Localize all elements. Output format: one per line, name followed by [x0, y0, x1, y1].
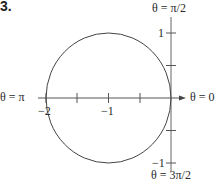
- label-theta-0: θ = 0: [190, 90, 215, 105]
- tick-label-x-neg1: −1: [101, 104, 114, 119]
- tick-label-y-1: 1: [158, 26, 164, 41]
- label-theta-pi: θ = π: [0, 90, 25, 105]
- arrow-right-icon: [179, 96, 186, 101]
- polar-circle-diagram: [0, 0, 215, 185]
- tick-label-x-neg2: −2: [38, 104, 51, 119]
- label-theta-pi-over-2: θ = π/2: [152, 1, 186, 16]
- tick-label-y-neg1: −1: [152, 156, 165, 171]
